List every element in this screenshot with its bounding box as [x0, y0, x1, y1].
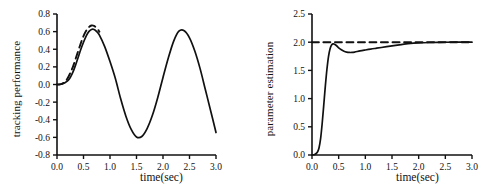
svg-text:-0.8: -0.8 — [35, 150, 50, 160]
figure-container: tracking performance time(sec) 0.80.60.4… — [0, 0, 497, 195]
svg-text:0.6: 0.6 — [38, 27, 50, 37]
svg-text:1.0: 1.0 — [359, 162, 371, 172]
svg-text:2.5: 2.5 — [293, 9, 305, 19]
svg-text:0.0: 0.0 — [38, 80, 50, 90]
svg-text:1.0: 1.0 — [104, 162, 116, 172]
svg-text:0.5: 0.5 — [78, 162, 90, 172]
svg-text:1.5: 1.5 — [131, 162, 143, 172]
svg-text:0.5: 0.5 — [293, 122, 305, 132]
svg-text:0.2: 0.2 — [38, 62, 50, 72]
plot-area-right: 2.52.01.51.00.50.00.00.51.01.52.02.53.0 — [248, 0, 496, 195]
svg-text:2.0: 2.0 — [413, 162, 425, 172]
svg-text:1.5: 1.5 — [386, 162, 398, 172]
svg-text:-0.6: -0.6 — [35, 133, 50, 143]
svg-text:2.5: 2.5 — [439, 162, 451, 172]
plot-area-left: 0.80.60.40.20.0-0.2-0.4-0.6-0.80.00.51.0… — [0, 0, 248, 195]
svg-text:1.5: 1.5 — [293, 66, 305, 76]
svg-text:-0.4: -0.4 — [35, 115, 50, 125]
svg-text:-0.2: -0.2 — [35, 98, 50, 108]
svg-text:1.0: 1.0 — [293, 94, 305, 104]
chart-panel-parameter-estimation: parameter estimation time(sec) 2.52.01.5… — [248, 0, 496, 195]
svg-text:2.5: 2.5 — [184, 162, 196, 172]
svg-text:2.0: 2.0 — [157, 162, 169, 172]
svg-text:0.4: 0.4 — [38, 45, 50, 55]
svg-text:2.0: 2.0 — [293, 38, 305, 48]
svg-text:0.5: 0.5 — [333, 162, 345, 172]
svg-text:3.0: 3.0 — [210, 162, 222, 172]
svg-text:0.0: 0.0 — [51, 162, 63, 172]
svg-text:3.0: 3.0 — [466, 162, 478, 172]
svg-text:0.0: 0.0 — [306, 162, 318, 172]
svg-text:0.8: 0.8 — [38, 9, 50, 19]
svg-text:0.0: 0.0 — [293, 150, 305, 160]
chart-panel-tracking-performance: tracking performance time(sec) 0.80.60.4… — [0, 0, 248, 195]
